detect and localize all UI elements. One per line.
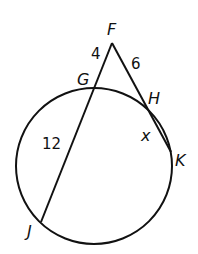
- point-label-f: F: [107, 20, 117, 39]
- segment-label-fh: 6: [131, 55, 141, 73]
- segment-label-fg: 4: [91, 45, 101, 63]
- secant-diagram: F G H K J 4 6 12 x: [0, 0, 198, 254]
- point-label-k: K: [175, 151, 187, 170]
- point-label-g: G: [77, 70, 89, 89]
- point-label-j: J: [24, 222, 32, 241]
- segment-label-gj: 12: [42, 135, 61, 153]
- segment-label-hk: x: [140, 126, 151, 145]
- point-label-h: H: [148, 89, 160, 108]
